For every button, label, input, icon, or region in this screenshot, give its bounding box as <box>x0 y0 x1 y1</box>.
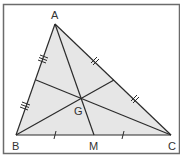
point-label-b: B <box>12 140 19 152</box>
triangle-centroid-diagram: A B C M G <box>0 0 180 157</box>
point-label-c: C <box>168 140 176 152</box>
point-label-a: A <box>51 9 59 21</box>
point-label-g: G <box>74 105 83 117</box>
point-label-m: M <box>89 140 98 152</box>
